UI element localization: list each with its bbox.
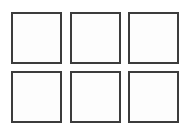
grid-cell-r1c1[interactable] (11, 12, 62, 64)
grid-cell-r2c2[interactable] (70, 71, 121, 123)
grid-row-2 (0, 71, 190, 124)
grid-cell-label-r2c3 (130, 73, 177, 121)
grid-row-1 (0, 12, 190, 65)
grid-cell-label-r2c1 (13, 73, 60, 121)
grid-cell-r1c2[interactable] (70, 12, 121, 64)
grid-cell-label-r1c2 (72, 14, 119, 62)
grid-cell-label-r1c1 (13, 14, 60, 62)
grid-cell-r2c1[interactable] (11, 71, 62, 123)
grid-cell-r2c3[interactable] (128, 71, 179, 123)
grid-cell-r1c3[interactable] (128, 12, 179, 64)
grid-cell-label-r2c2 (72, 73, 119, 121)
grid-canvas (0, 0, 190, 131)
grid-cell-label-r1c3 (130, 14, 177, 62)
